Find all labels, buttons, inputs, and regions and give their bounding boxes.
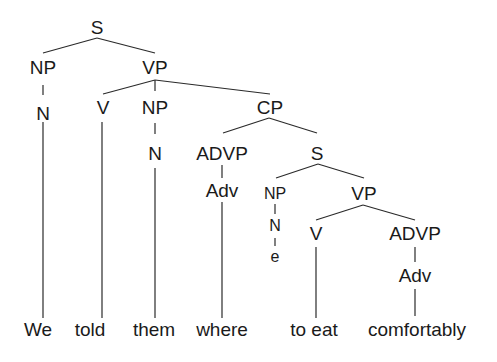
edge-vpemb-advp <box>363 205 415 220</box>
edge-vp-v <box>103 80 155 94</box>
node-n-object: N <box>148 143 162 164</box>
node-n-embedded: N <box>269 217 281 234</box>
node-s-embedded: S <box>311 143 324 164</box>
node-vp-main: VP <box>142 57 167 78</box>
word-we: We <box>24 319 52 340</box>
edge-s-np <box>43 38 97 53</box>
word-told: told <box>75 319 106 340</box>
edge-cp-advp <box>223 118 269 133</box>
word-them: them <box>133 319 175 340</box>
edge-vpemb-v <box>316 205 363 220</box>
node-np-subject: NP <box>30 57 56 78</box>
node-s-root: S <box>91 17 104 38</box>
syntax-tree-diagram: S NP N VP V NP N CP ADVP Adv S NP N e VP… <box>0 0 497 362</box>
node-np-embedded: NP <box>264 185 286 202</box>
node-vp-embedded: VP <box>351 183 376 204</box>
tree-edges <box>43 38 415 318</box>
node-v-main: V <box>97 97 110 118</box>
node-empty-category: e <box>271 248 280 265</box>
tree-terminals: We told them where to eat comfortably <box>24 319 467 340</box>
node-v-embedded: V <box>310 223 323 244</box>
node-n-subject: N <box>36 103 50 124</box>
word-comfortably: comfortably <box>368 319 467 340</box>
node-advp-embedded: ADVP <box>389 223 441 244</box>
edge-semb-vp <box>318 164 364 178</box>
word-where: where <box>195 319 248 340</box>
node-advp-wh: ADVP <box>196 143 248 164</box>
edge-cp-s <box>269 118 317 133</box>
edge-semb-np <box>276 164 318 178</box>
word-to-eat: to eat <box>290 319 338 340</box>
edge-s-vp <box>97 38 155 53</box>
node-cp: CP <box>257 97 283 118</box>
tree-nodes: S NP N VP V NP N CP ADVP Adv S NP N e VP… <box>30 17 441 286</box>
edge-vp-cp <box>155 80 270 94</box>
node-adv-embedded: Adv <box>399 265 432 286</box>
node-adv-wh: Adv <box>206 180 239 201</box>
node-np-object: NP <box>142 97 168 118</box>
tree-canvas: S NP N VP V NP N CP ADVP Adv S NP N e VP… <box>0 0 497 362</box>
